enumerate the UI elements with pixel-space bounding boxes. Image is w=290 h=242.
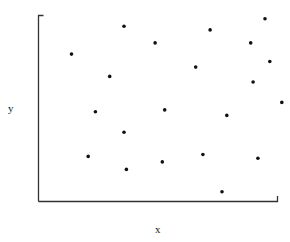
data-point [256, 156, 260, 160]
data-point [208, 28, 212, 32]
data-point [108, 75, 112, 79]
data-point [122, 24, 126, 28]
data-point [201, 153, 205, 157]
axes [39, 16, 278, 202]
data-point [94, 110, 98, 114]
data-point [268, 60, 272, 64]
x-axis-label: x [155, 223, 161, 235]
data-point [70, 52, 74, 56]
data-points [70, 17, 284, 194]
scatter-plot [0, 0, 290, 242]
x-axis [39, 196, 278, 202]
data-point [125, 168, 129, 172]
data-point [220, 190, 224, 194]
data-point [251, 80, 255, 84]
data-point [194, 65, 198, 69]
data-point [153, 41, 157, 45]
data-point [280, 101, 284, 105]
data-point [249, 41, 253, 45]
data-point [263, 17, 267, 21]
y-axis [39, 16, 44, 202]
data-point [225, 114, 229, 118]
data-point [86, 155, 90, 159]
y-axis-label: y [8, 102, 14, 114]
data-point [122, 130, 126, 134]
data-point [161, 160, 165, 164]
data-point [163, 108, 167, 112]
